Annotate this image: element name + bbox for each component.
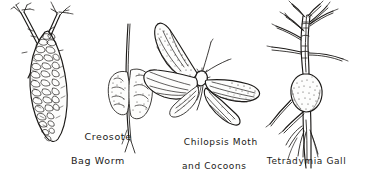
caption-tetradymia-gall: Tetradymia Gall — [253, 143, 346, 172]
caption-chilopsis-moth: Chilopsis Moth and Cocoons — [170, 124, 258, 172]
bagworm-case — [30, 31, 67, 141]
caption-line-1: Chilopsis Moth — [184, 137, 258, 147]
caption-line-1: Tetradymia Gall — [267, 156, 346, 166]
illustration-plate: Creosote Bag Worm Chilopsis Moth and Coc… — [0, 0, 371, 172]
caption-creosote-bag-worm: Creosote Bag Worm — [70, 119, 132, 172]
gall-swelling — [291, 74, 322, 112]
caption-line-2: and Cocoons — [182, 160, 258, 172]
creosote-bag-worm-drawing — [11, 2, 73, 141]
cocoon-left — [108, 71, 129, 114]
caption-line-1: Creosote — [84, 131, 131, 142]
caption-line-2: Bag Worm — [71, 155, 132, 167]
